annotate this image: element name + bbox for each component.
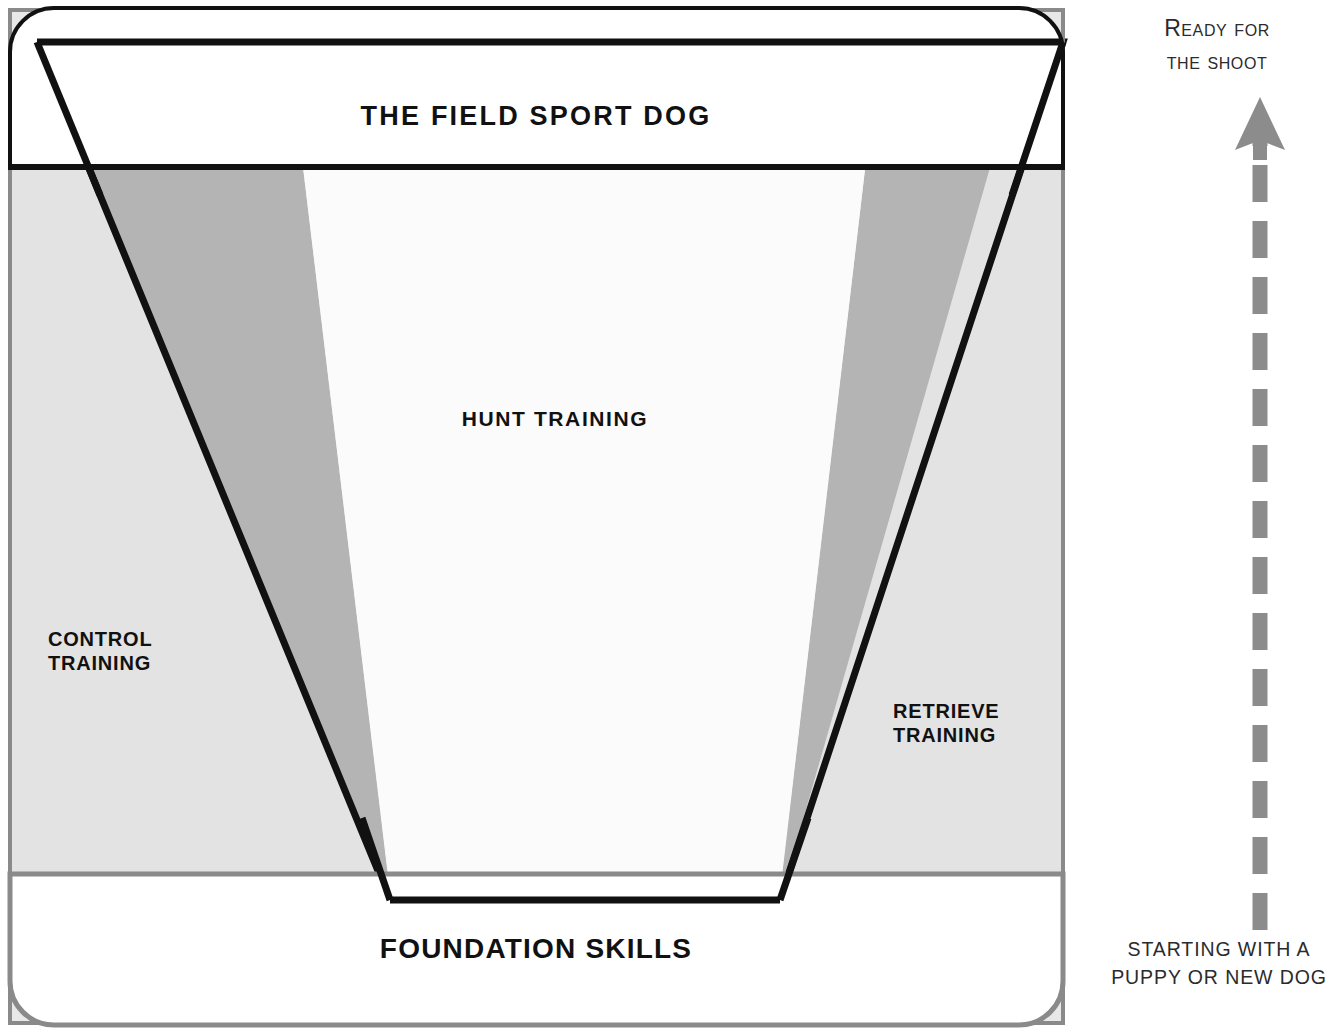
progress-arrow-head-icon xyxy=(1235,97,1285,160)
control-training-label: CONTROL TRAINING xyxy=(48,627,308,676)
foundation-skills-label: FOUNDATION SKILLS xyxy=(0,932,1072,966)
retrieve-training-label: RETRIEVE TRAINING xyxy=(893,699,1153,748)
arrow-bottom-note: STARTING WITH A PUPPY OR NEW DOG xyxy=(1104,936,1334,991)
diagram-canvas: THE FIELD SPORT DOG HUNT TRAINING CONTRO… xyxy=(0,0,1337,1035)
page-title: THE FIELD SPORT DOG xyxy=(0,100,1072,133)
arrow-top-note: Ready for the shoot xyxy=(1108,12,1326,77)
hunt-training-label: HUNT TRAINING xyxy=(330,406,780,432)
diagram-graphics xyxy=(0,0,1337,1035)
